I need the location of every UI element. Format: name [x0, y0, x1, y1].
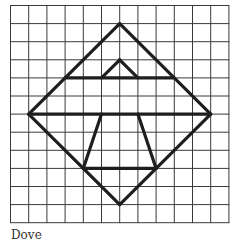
trapezoid-left-line [83, 114, 101, 168]
diamond-top-left-line [29, 24, 120, 115]
small-triangle-left-line [102, 60, 120, 78]
diamond-bottom-left-line [29, 114, 120, 205]
figure-caption: Dove [11, 228, 42, 242]
dove-quilt-diagram [0, 0, 243, 226]
small-triangle-right-line [120, 60, 138, 78]
diamond-bottom-right-line [120, 114, 211, 205]
trapezoid-right-line [138, 114, 156, 168]
diamond-top-right-line [120, 24, 211, 115]
